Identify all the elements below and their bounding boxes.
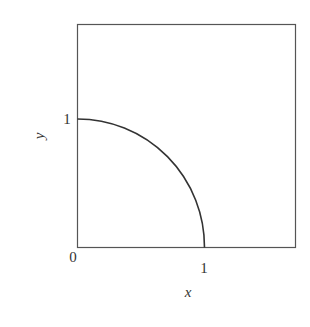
x-axis-label: x [184, 284, 192, 300]
chart-canvas: 0 1 1 x y [0, 0, 310, 327]
y-axis-label: y [31, 132, 47, 141]
origin-label: 0 [69, 249, 77, 265]
plot-frame [78, 25, 296, 248]
quarter-circle-curve [78, 119, 205, 248]
y-tick-label-1: 1 [63, 111, 71, 127]
x-tick-label-1: 1 [200, 260, 208, 276]
